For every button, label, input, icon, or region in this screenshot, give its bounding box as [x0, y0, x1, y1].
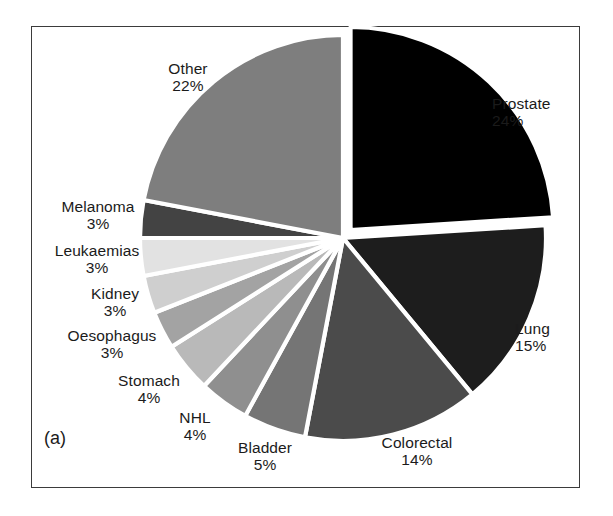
slice-label-leukaemias: Leukaemias 3%	[38, 242, 156, 276]
figure-root: Prostate 24% Lung 15% Colorectal 14% Bla…	[0, 0, 613, 516]
slice-label-leukaemias-percent: 3%	[38, 259, 156, 276]
slice-label-lung-percent: 15%	[515, 337, 550, 354]
slice-label-prostate-name: Prostate	[492, 95, 551, 112]
slice-label-colorectal-percent: 14%	[362, 451, 472, 468]
slice-label-lung: Lung 15%	[515, 320, 550, 354]
slice-label-kidney: Kidney 3%	[72, 285, 158, 319]
slice-label-stomach-percent: 4%	[105, 389, 193, 406]
slice-label-nhl-percent: 4%	[167, 426, 223, 443]
slice-label-oesophagus: Oesophagus 3%	[57, 327, 167, 361]
slice-label-bladder-percent: 5%	[219, 456, 311, 473]
panel-letter: (a)	[44, 428, 66, 449]
slice-label-stomach: Stomach 4%	[105, 372, 193, 406]
slice-label-other: Other 22%	[145, 60, 231, 94]
slice-label-melanoma-percent: 3%	[43, 215, 153, 232]
slice-label-bladder-name: Bladder	[219, 439, 311, 456]
slice-label-melanoma: Melanoma 3%	[43, 198, 153, 232]
slice-label-other-name: Other	[145, 60, 231, 77]
slice-label-other-percent: 22%	[145, 77, 231, 94]
slice-label-lung-name: Lung	[515, 320, 550, 337]
slice-label-oesophagus-name: Oesophagus	[57, 327, 167, 344]
slice-label-nhl-name: NHL	[167, 409, 223, 426]
slice-label-bladder: Bladder 5%	[219, 439, 311, 473]
slice-label-prostate: Prostate 24%	[492, 95, 551, 129]
slice-label-prostate-percent: 24%	[492, 112, 551, 129]
slice-label-colorectal-name: Colorectal	[362, 434, 472, 451]
slice-label-colorectal: Colorectal 14%	[362, 434, 472, 468]
slice-label-kidney-name: Kidney	[72, 285, 158, 302]
slice-label-melanoma-name: Melanoma	[43, 198, 153, 215]
slice-label-oesophagus-percent: 3%	[57, 344, 167, 361]
slice-label-nhl: NHL 4%	[167, 409, 223, 443]
slice-label-stomach-name: Stomach	[105, 372, 193, 389]
slice-label-leukaemias-name: Leukaemias	[38, 242, 156, 259]
slice-label-kidney-percent: 3%	[72, 302, 158, 319]
